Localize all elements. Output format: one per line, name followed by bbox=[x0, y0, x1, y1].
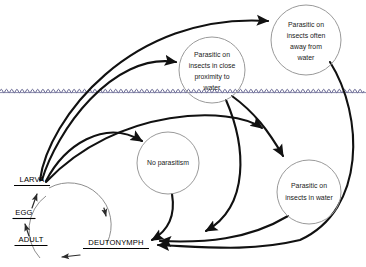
edge-ring-to-deutonymph bbox=[104, 208, 106, 216]
svg-text:No parasitism: No parasitism bbox=[147, 159, 189, 167]
label-parasitic-in-water: Parasitic on insects in water bbox=[285, 182, 333, 201]
svg-text:Parasitic on: Parasitic on bbox=[194, 51, 230, 58]
svg-text:water: water bbox=[203, 84, 222, 91]
node-parasitic-away-from-water[interactable] bbox=[271, 5, 341, 75]
svg-text:DEUTONYMPH: DEUTONYMPH bbox=[88, 238, 143, 247]
node-parasitic-in-water[interactable] bbox=[277, 160, 341, 224]
edge-close-proximity-to-deutonymph bbox=[206, 100, 240, 231]
svg-text:insects in close: insects in close bbox=[189, 62, 236, 69]
stage-larva[interactable]: LARVA bbox=[14, 175, 50, 186]
svg-text:Parasitic on: Parasitic on bbox=[291, 182, 327, 189]
stage-egg[interactable]: EGG bbox=[13, 208, 36, 219]
svg-text:LARVA: LARVA bbox=[20, 175, 46, 184]
svg-text:water: water bbox=[297, 54, 316, 61]
edge-larva-to-deutonymph bbox=[46, 115, 262, 182]
svg-text:ADULT: ADULT bbox=[18, 235, 43, 244]
svg-text:insects often: insects often bbox=[287, 32, 326, 39]
label-parasitic-close-proximity: Parasitic on insects in close proximity … bbox=[189, 51, 236, 91]
svg-text:EGG: EGG bbox=[15, 208, 32, 217]
edge-in-water-to-deutonymph bbox=[160, 216, 288, 242]
label-parasitic-away-from-water: Parasitic on insects often away from wat… bbox=[287, 21, 326, 61]
svg-text:Parasitic on: Parasitic on bbox=[288, 21, 324, 28]
diagram-canvas: Parasitic on insects often away from wat… bbox=[0, 0, 366, 267]
parasitism-lifecycle-diagram: Parasitic on insects often away from wat… bbox=[0, 0, 366, 267]
stage-deutonymph[interactable]: DEUTONYMPH bbox=[83, 238, 149, 249]
water-surface-line bbox=[0, 89, 366, 92]
edge-no-parasitism-to-deutonymph bbox=[152, 194, 173, 240]
svg-text:away from: away from bbox=[290, 43, 322, 51]
svg-text:insects in water: insects in water bbox=[285, 194, 333, 201]
svg-text:proximity to: proximity to bbox=[194, 73, 229, 81]
edge-deutonymph-to-adult bbox=[62, 255, 80, 257]
label-no-parasitism: No parasitism bbox=[147, 159, 189, 167]
stage-adult[interactable]: ADULT bbox=[15, 235, 48, 246]
